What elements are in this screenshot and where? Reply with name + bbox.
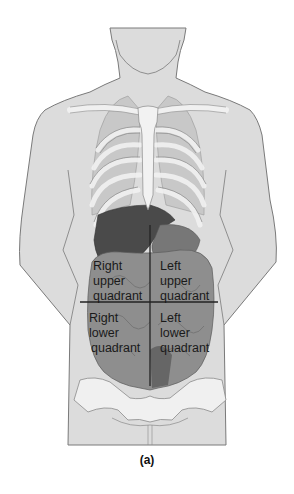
label-right-lower-quadrant: Right lower quadrant (89, 311, 140, 356)
label-right-upper-quadrant: Right upper quadrant (93, 259, 142, 304)
figure-caption: (a) (0, 453, 294, 467)
abdominal-quadrants-figure: Right upper quadrant Left upper quadrant… (0, 0, 294, 494)
torso-illustration (0, 0, 294, 494)
label-left-lower-quadrant: Left lower quadrant (160, 311, 209, 356)
label-left-upper-quadrant: Left upper quadrant (160, 259, 209, 304)
